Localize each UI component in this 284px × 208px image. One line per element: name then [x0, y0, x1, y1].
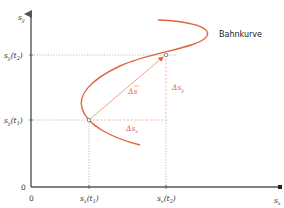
x-axis-arrow-icon	[278, 185, 282, 189]
tick-label-y-t1: sy(t1)	[4, 116, 23, 127]
axes	[29, 14, 282, 189]
delta-s-vector-label: Δs	[127, 87, 137, 96]
y-axis-label: sy	[18, 13, 25, 24]
point-t2	[164, 53, 168, 57]
curve-label: Bahnkurve	[219, 30, 262, 39]
x-axis-label: sx	[274, 196, 281, 206]
origin-x-label: 0	[29, 194, 34, 203]
tick-label-x-t2: sx(t2)	[157, 194, 176, 204]
delta-sy-label: Δsy	[171, 83, 184, 94]
trajectory-curve	[81, 20, 207, 145]
displacement-vector	[89, 57, 163, 120]
trajectory-diagram: Bahnkurve sy sx 0 0 sy(t2) sy(t1) sx(t1)…	[0, 0, 284, 208]
tick-label-y-t2: sy(t2)	[4, 51, 23, 62]
delta-sx-label: Δsx	[125, 124, 138, 134]
point-t1	[87, 118, 91, 122]
tick-label-x-t1: sx(t1)	[80, 194, 99, 204]
origin-y-label: 0	[21, 183, 26, 192]
